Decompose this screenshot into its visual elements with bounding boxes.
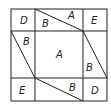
region-labels: D B A E B A B E B D: [19, 10, 99, 96]
label-b-right: B: [86, 62, 93, 73]
square-dissection-diagram: D B A E B A B E B D: [0, 0, 111, 106]
label-d-top-left: D: [20, 15, 28, 26]
label-d-bottom-right: D: [91, 85, 99, 96]
label-e-top-right: E: [91, 15, 98, 26]
label-b-bottom: B: [69, 82, 76, 93]
label-a-top: A: [67, 10, 75, 21]
label-b-top: B: [42, 18, 49, 29]
label-e-bottom-left: E: [19, 85, 26, 96]
label-b-left: B: [23, 36, 30, 47]
label-a-center: A: [55, 49, 63, 60]
